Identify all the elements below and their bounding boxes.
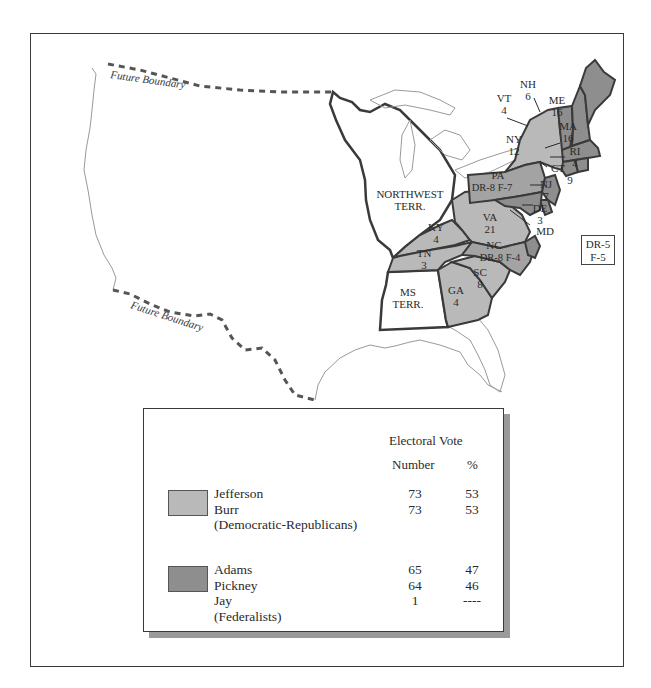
pickney-number: 64 bbox=[394, 578, 436, 594]
label-nj-votes: 7 bbox=[543, 190, 549, 202]
label-nh: NH bbox=[520, 78, 536, 90]
label-ma: MA bbox=[559, 120, 577, 132]
jay-number: 1 bbox=[394, 593, 436, 609]
label-nj: NJ bbox=[540, 178, 553, 190]
adams-percent: 47 bbox=[457, 562, 487, 578]
label-ri-votes: 4 bbox=[572, 157, 578, 169]
label-tn-votes: 3 bbox=[421, 259, 427, 271]
label-sc: SC bbox=[473, 266, 486, 278]
west-coast-outline bbox=[84, 68, 116, 290]
label-nw-terr-2: TERR. bbox=[395, 200, 426, 212]
md-split-dr: DR-5 bbox=[582, 238, 614, 251]
party-federalist: (Federalists) bbox=[214, 609, 281, 625]
label-ny: NY bbox=[506, 133, 522, 145]
label-vt-votes: 4 bbox=[501, 104, 507, 116]
label-pa: PA bbox=[491, 169, 504, 181]
label-nc-votes: DR-8 F-4 bbox=[480, 252, 521, 263]
label-de: DE bbox=[533, 202, 548, 214]
label-me-votes: 16 bbox=[552, 106, 564, 118]
jefferson-percent: 53 bbox=[457, 486, 487, 502]
legend-dr-names: Jefferson Burr (Democratic-Republicans) bbox=[214, 486, 357, 533]
legend-header: Electoral Vote bbox=[389, 433, 463, 449]
label-sc-votes: 8 bbox=[477, 278, 483, 290]
label-md: MD bbox=[536, 225, 554, 237]
label-ct: CT bbox=[551, 162, 565, 174]
pickney-percent: 46 bbox=[457, 578, 487, 594]
legend-swatch-dr bbox=[168, 490, 208, 516]
label-me: ME bbox=[549, 94, 566, 106]
party-dr: (Democratic-Republicans) bbox=[214, 517, 357, 533]
burr-number: 73 bbox=[394, 502, 436, 518]
label-pa-votes: DR-8 F-7 bbox=[472, 182, 513, 193]
candidate-jefferson: Jefferson bbox=[214, 486, 357, 502]
label-vt: VT bbox=[497, 92, 512, 104]
candidate-jay: Jay bbox=[214, 593, 281, 609]
legend-dr-percents: 53 53 bbox=[457, 486, 487, 517]
label-ma-votes: 16 bbox=[563, 132, 575, 144]
candidate-burr: Burr bbox=[214, 502, 357, 518]
md-split-box: DR-5 F-5 bbox=[581, 235, 615, 265]
legend-col-percent: % bbox=[467, 457, 478, 473]
label-ga-votes: 4 bbox=[453, 296, 459, 308]
legend-fed-percents: 47 46 ---- bbox=[457, 562, 487, 609]
label-ct-votes: 9 bbox=[567, 174, 573, 186]
adams-number: 65 bbox=[394, 562, 436, 578]
legend-dr-numbers: 73 73 bbox=[394, 486, 436, 517]
legend-fed-numbers: 65 64 1 bbox=[394, 562, 436, 609]
legend-box: Electoral Vote Number % Jefferson Burr (… bbox=[143, 408, 504, 632]
label-ms-terr-2: TERR. bbox=[393, 298, 424, 310]
label-nw-terr: NORTHWEST bbox=[376, 188, 443, 200]
md-split-f: F-5 bbox=[582, 251, 614, 264]
label-ky: KY bbox=[428, 221, 444, 233]
burr-percent: 53 bbox=[457, 502, 487, 518]
label-ri: RI bbox=[570, 145, 581, 157]
label-nh-votes: 6 bbox=[525, 90, 531, 102]
florida-outline bbox=[440, 318, 505, 392]
label-va: VA bbox=[483, 211, 498, 223]
candidate-pickney: Pickney bbox=[214, 578, 281, 594]
label-ky-votes: 4 bbox=[433, 233, 439, 245]
leader-nh bbox=[534, 98, 540, 112]
candidate-adams: Adams bbox=[214, 562, 281, 578]
label-nc: NC bbox=[486, 239, 501, 251]
leader-vt bbox=[507, 118, 528, 126]
future-boundary-label-north: Future Boundary bbox=[109, 68, 187, 91]
label-ms-terr: MS bbox=[400, 286, 416, 298]
future-boundary-label-south: Future Boundary bbox=[128, 298, 205, 333]
label-ny-votes: 12 bbox=[509, 145, 520, 157]
legend-col-number: Number bbox=[392, 457, 435, 473]
legend-fed-names: Adams Pickney Jay (Federalists) bbox=[214, 562, 281, 624]
label-ga: GA bbox=[448, 284, 464, 296]
gulf-coast-outline bbox=[315, 340, 502, 400]
label-tn: TN bbox=[417, 247, 432, 259]
legend-swatch-federalist bbox=[168, 566, 208, 592]
jay-percent: ---- bbox=[457, 593, 487, 609]
label-va-votes: 21 bbox=[485, 223, 496, 235]
jefferson-number: 73 bbox=[394, 486, 436, 502]
